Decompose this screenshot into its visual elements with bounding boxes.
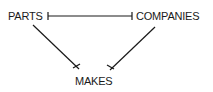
edge-parts-companies bbox=[48, 12, 132, 20]
diagram-edges bbox=[0, 0, 213, 92]
edge-parts-makes bbox=[33, 25, 80, 69]
edge-companies-makes bbox=[107, 27, 155, 70]
